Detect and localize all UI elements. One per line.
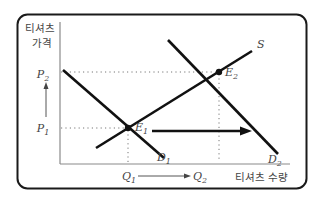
demand-curve-d2 [168, 40, 278, 154]
p2-label: P2 [36, 68, 50, 83]
q1-label: Q1 [122, 170, 136, 185]
x-axis-label: 티셔츠 수량 [235, 171, 288, 183]
demand-d2-label: D2 [267, 153, 282, 168]
equilibrium-point-e2 [216, 69, 222, 75]
equilibrium-point-e1 [125, 125, 131, 131]
q2-label: Q2 [193, 170, 207, 185]
p1-label: P1 [36, 122, 50, 137]
demand-shift-arrow-head [240, 127, 252, 136]
demand-d1-label: D1 [156, 151, 171, 166]
e2-label: E2 [224, 66, 238, 81]
price-rise-arrow-head [44, 82, 49, 89]
quantity-rise-arrow-head [184, 174, 191, 179]
supply-curve-label: S [257, 38, 265, 51]
supply-demand-diagram: 티셔츠 가격 티셔츠 수량 P2 P1 Q1 Q2 S D1 D2 E1 E2 [0, 0, 322, 198]
y-axis-label-line2: 가격 [32, 37, 52, 49]
e1-label: E1 [134, 121, 148, 136]
y-axis-label-line1: 티셔츠 [25, 22, 55, 34]
